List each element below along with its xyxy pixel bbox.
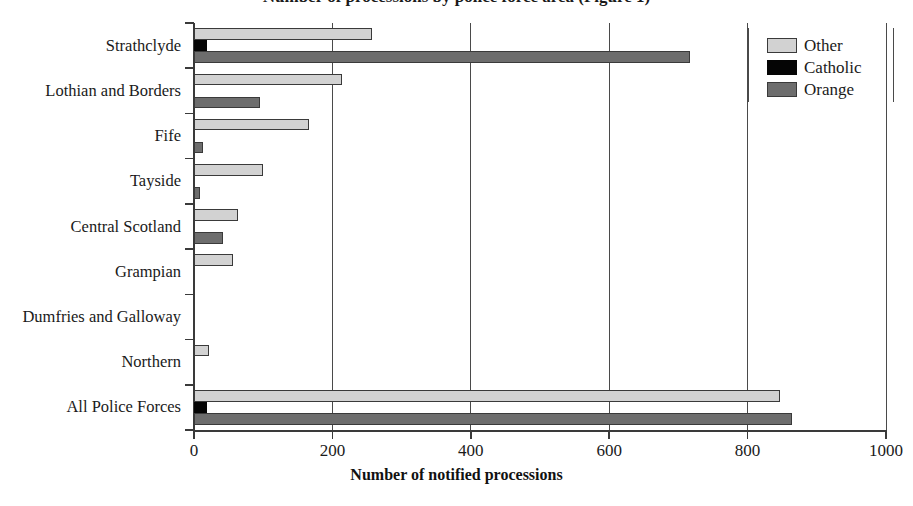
y-tick	[185, 113, 194, 115]
bar-catholic	[194, 40, 207, 52]
y-tick	[185, 22, 194, 24]
chart-title: Number of processions by police force ar…	[0, 0, 913, 7]
bar-orange	[194, 413, 792, 425]
category-label: Lothian and Borders	[45, 83, 181, 100]
gridline	[470, 23, 471, 430]
bar-other	[194, 74, 342, 86]
legend-label: Other	[804, 37, 843, 54]
bar-orange	[194, 51, 690, 63]
x-tick-label: 0	[190, 441, 199, 461]
legend-label: Catholic	[804, 59, 862, 76]
x-tick	[608, 430, 610, 439]
x-tick-label: 1000	[869, 441, 903, 461]
chart-legend: OtherCatholicOrange	[748, 28, 894, 102]
category-label: Northern	[121, 354, 181, 371]
bar-chart: Number of processions by police force ar…	[0, 0, 913, 506]
bar-other	[194, 28, 372, 40]
x-tick	[885, 430, 887, 439]
y-tick	[185, 158, 194, 160]
category-label: Central Scotland	[71, 219, 181, 236]
bar-other	[194, 209, 238, 221]
x-axis-title: Number of notified processions	[0, 466, 913, 484]
category-label: Dumfries and Galloway	[22, 309, 181, 326]
legend-swatch-catholic	[767, 60, 797, 75]
x-tick	[332, 430, 334, 439]
bar-other	[194, 254, 233, 266]
x-tick	[747, 430, 749, 439]
bar-other	[194, 345, 209, 357]
legend-entry: Orange	[767, 78, 854, 101]
x-axis-line	[193, 430, 887, 432]
x-tick-label: 200	[320, 441, 346, 461]
legend-entry: Catholic	[767, 56, 862, 79]
y-tick	[185, 67, 194, 69]
category-label: Fife	[154, 128, 181, 145]
y-tick	[185, 294, 194, 296]
y-tick	[185, 339, 194, 341]
gridline	[609, 23, 610, 430]
bar-orange	[194, 97, 260, 109]
bar-other	[194, 164, 263, 176]
legend-entry: Other	[767, 34, 843, 57]
category-label: Grampian	[115, 264, 181, 281]
x-tick-label: 800	[735, 441, 761, 461]
y-tick	[185, 384, 194, 386]
legend-swatch-orange	[767, 82, 797, 97]
x-tick	[470, 430, 472, 439]
x-tick-label: 600	[596, 441, 622, 461]
y-tick	[185, 203, 194, 205]
category-label: All Police Forces	[66, 399, 181, 416]
bar-other	[194, 390, 780, 402]
legend-label: Orange	[804, 81, 854, 98]
bar-orange	[194, 142, 203, 154]
bar-orange	[194, 232, 223, 244]
y-tick	[185, 248, 194, 250]
bar-other	[194, 119, 309, 131]
category-label: Strathclyde	[106, 38, 181, 55]
category-label: Tayside	[130, 173, 181, 190]
x-tick-label: 400	[458, 441, 484, 461]
bar-orange	[194, 187, 200, 199]
bar-catholic	[194, 402, 207, 414]
x-tick	[193, 430, 195, 439]
legend-swatch-other	[767, 38, 797, 53]
